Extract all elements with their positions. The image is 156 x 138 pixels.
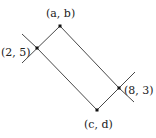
label-8-3: (8, 3)	[124, 84, 154, 97]
point-ab	[59, 25, 62, 28]
point-cd	[96, 109, 99, 112]
point-8-3	[118, 87, 121, 90]
label-cd: (c, d)	[84, 118, 113, 131]
label-ab: (a, b)	[46, 7, 75, 20]
label-2-5: (2, 5)	[1, 46, 31, 59]
rectangle-diagram: (a, b) (2, 5) (8, 3) (c, d)	[0, 0, 156, 138]
edge-ab-to-83	[60, 26, 119, 88]
point-2-5	[36, 47, 39, 50]
edge-25-to-cd	[37, 48, 97, 110]
